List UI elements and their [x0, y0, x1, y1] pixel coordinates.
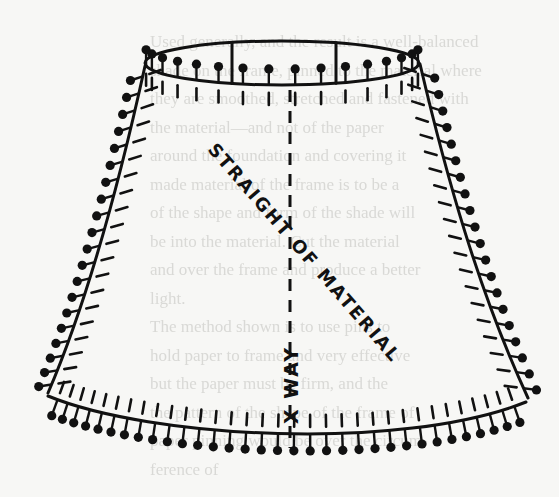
pin-point: [92, 391, 95, 403]
pin-head: [417, 439, 426, 448]
pin-head: [503, 422, 512, 431]
pin-head: [118, 110, 127, 119]
pin-point: [129, 156, 140, 160]
pin-head: [81, 421, 90, 430]
pin-head: [341, 62, 350, 71]
pin-point: [133, 139, 144, 143]
pin-point: [138, 122, 149, 126]
pin-head: [122, 93, 131, 102]
pin-head: [402, 441, 411, 450]
pin-point: [102, 257, 114, 260]
pin-head: [306, 446, 315, 455]
pin-head: [515, 418, 524, 427]
pin-point: [412, 101, 423, 105]
straight-of-material-label: STRAIGHT OF MATERIAL: [204, 139, 405, 366]
pin-head: [58, 415, 67, 424]
pin-point: [444, 219, 456, 222]
left-side-wire: [48, 66, 145, 393]
pin-point: [104, 394, 107, 406]
pin-point: [434, 185, 446, 188]
pin-head: [238, 63, 247, 72]
pin-point: [417, 408, 419, 420]
pin-head: [476, 429, 485, 438]
pin-point: [508, 388, 512, 399]
pin-point: [106, 241, 118, 244]
pin-head: [451, 156, 460, 165]
pin-head: [370, 444, 379, 453]
pin-point: [64, 367, 76, 369]
pin-head: [470, 222, 479, 231]
pin-head: [511, 337, 520, 346]
pin-point: [262, 414, 263, 426]
pin-point: [472, 399, 475, 411]
pin-head: [397, 53, 406, 62]
pin-point: [421, 135, 432, 138]
pin-head: [291, 64, 300, 73]
pin-head: [322, 446, 331, 455]
pin-point: [171, 406, 173, 418]
pin-head: [73, 277, 82, 286]
pin-head: [192, 60, 201, 69]
pin-head: [67, 293, 76, 302]
pin-head: [487, 272, 496, 281]
pin-head: [40, 368, 49, 377]
pin-point: [116, 207, 128, 210]
pin-head: [126, 76, 135, 85]
pin-point: [146, 87, 157, 91]
pin-head: [69, 418, 78, 427]
pin-point: [142, 402, 144, 414]
pin-point: [185, 408, 186, 420]
pin-point: [156, 404, 158, 416]
pin-head: [106, 161, 115, 170]
pin-head: [413, 45, 422, 54]
pin-point: [491, 353, 503, 355]
pin-head: [505, 321, 514, 330]
pin-head: [57, 324, 66, 333]
lampshade-pinning-diagram: STRAIGHT OF MATERIAL X WAY: [0, 0, 559, 497]
pin-head: [430, 73, 439, 82]
pin-point: [70, 352, 82, 354]
pin-point: [91, 290, 103, 293]
pin-head: [433, 437, 442, 446]
pin-point: [446, 404, 448, 416]
pin-head: [92, 211, 101, 220]
pin-head: [209, 442, 218, 451]
pin-head: [62, 308, 71, 317]
pin-head: [78, 261, 87, 270]
pin-head: [225, 443, 234, 452]
pin-head: [34, 382, 43, 391]
pin-point: [373, 413, 374, 425]
pin-head: [147, 49, 156, 58]
pin-head: [148, 435, 157, 444]
pin-point: [80, 388, 83, 400]
pin-head: [442, 123, 451, 132]
pin-head: [93, 425, 102, 434]
pin-head: [465, 206, 474, 215]
pin-head: [456, 173, 465, 182]
pin-head: [47, 411, 56, 420]
pin-head: [354, 445, 363, 454]
pin-point: [86, 306, 98, 309]
pin-head: [386, 443, 395, 452]
pin-head: [498, 305, 507, 314]
pin-head: [532, 385, 541, 394]
top-ring: [145, 41, 419, 85]
pin-point: [388, 412, 389, 424]
pin-point: [416, 118, 427, 122]
pin-point: [498, 369, 510, 371]
pin-head: [447, 140, 456, 149]
pin-point: [97, 274, 109, 277]
pin-point: [449, 236, 461, 239]
pin-head: [257, 445, 266, 454]
pin-point: [200, 410, 201, 422]
pin-head: [264, 64, 273, 73]
pin-point: [460, 270, 472, 273]
pin-point: [505, 386, 517, 388]
pin-head: [382, 57, 391, 66]
pin-head: [214, 62, 223, 71]
pin-head: [83, 244, 92, 253]
pin-point: [430, 168, 442, 171]
pin-head: [106, 427, 115, 436]
x-way-label: X WAY: [280, 346, 302, 424]
pin-point: [231, 412, 232, 424]
